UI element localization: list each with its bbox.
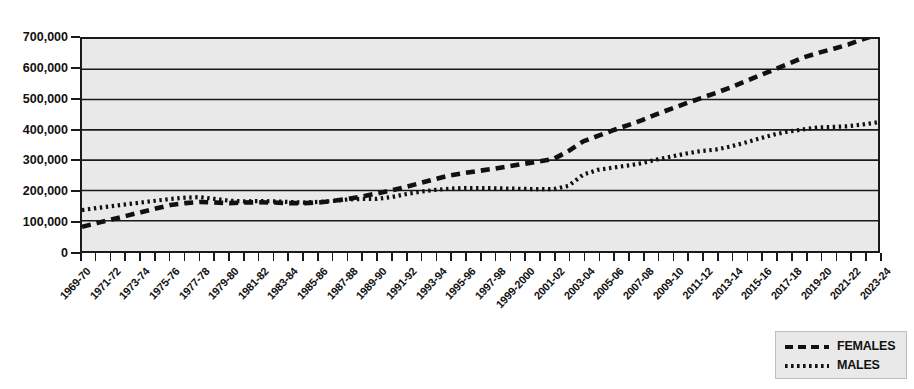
x-axis-tick-label: 1993-94 [413,265,448,302]
chart-legend: FEMALES MALES [775,331,907,379]
x-axis-tick-label: 2021-22 [828,265,863,302]
x-axis-tick-label: 2003-04 [561,265,596,302]
x-axis-tick-label: 2001-02 [531,265,566,302]
x-axis-tick-label: 1969-70 [57,265,92,302]
chart-screenshot: 700,000600,000500,000400,000300,000200,0… [0,0,914,389]
x-axis-tick-label: 2023-24 [857,265,892,302]
x-axis-tick-label: 1983-84 [265,265,300,302]
line-chart: 700,000600,000500,000400,000300,000200,0… [0,0,914,389]
x-axis-tick-label: 2007-08 [620,265,655,302]
legend-label-females: FEMALES [837,340,895,353]
x-axis-tick-label: 1971-72 [87,265,122,302]
dashed-line-key [784,341,830,353]
legend-item-males: MALES [784,356,900,375]
dotted-line-key [784,360,830,372]
legend-item-females: FEMALES [784,337,900,356]
x-axis-tick-label: 1981-82 [235,265,270,302]
x-axis-tick-label: 2009-10 [650,265,685,302]
x-axis-tick-label: 2017-18 [769,265,804,302]
x-axis-tick-label: 1977-78 [176,265,211,302]
x-axis-tick-label: 1985-86 [294,265,329,302]
x-axis-tick-label: 1975-76 [146,265,181,302]
x-axis-tick-label: 1995-96 [443,265,478,302]
x-axis-tick-label: 2015-16 [739,265,774,302]
x-axis-tick-label: 2005-06 [591,265,626,302]
x-axis-tick-label: 1991-92 [383,265,418,302]
x-axis-tick-label: 2013-14 [709,265,744,302]
x-axis-tick-label: 2011-12 [680,265,715,301]
legend-label-males: MALES [837,359,880,372]
x-axis-tick-label: 1989-90 [354,265,389,302]
x-axis-tick-label: 1979-80 [206,265,241,302]
x-axis-tick-label: 1987-88 [324,265,359,302]
x-axis-tick-label: 2019-20 [798,265,833,302]
x-axis-tick-label: 1973-74 [117,265,152,302]
